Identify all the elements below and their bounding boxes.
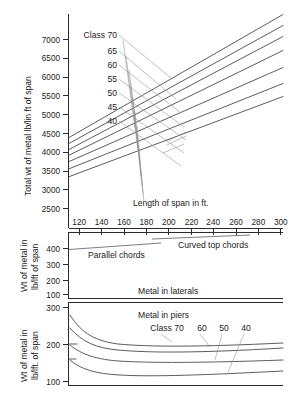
- top-leader-lines: [119, 35, 186, 202]
- mid-y-tick-label: 100: [46, 291, 60, 300]
- bottom-y-tick-label: 300: [46, 304, 60, 313]
- top-y-tick-label: 4500: [42, 130, 61, 139]
- panel-metal-in-piers: 300 200 100 Wt of metal in lb/lft. of sp…: [19, 302, 283, 387]
- top-y-tick-label: 4000: [42, 148, 61, 157]
- bottom-class-labels: Class 70 60 50 40: [150, 323, 251, 333]
- engineering-chart-figure: 7000 6500 6000 5500 5000 4500 4000 3500 …: [0, 0, 295, 401]
- top-x-tick-label: 140: [95, 218, 109, 227]
- bottom-y-axis-title-line1: Wt of metal in: [19, 329, 29, 382]
- mid-y-tick-label: 400: [46, 245, 60, 254]
- top-y-tick-label: 7000: [42, 36, 61, 45]
- top-x-tick-labels: 120 140 160 180 200 220 240 260 280 300: [72, 218, 288, 227]
- bottom-y-ticks: [63, 308, 69, 382]
- annot-curved-top-chords: Curved top chords: [178, 240, 248, 250]
- top-y-tick-label: 3000: [42, 186, 61, 195]
- leader-aux-6: [135, 112, 143, 194]
- pier-class-label-70: Class 70: [150, 323, 184, 333]
- mid-y-tick-labels: 400 300 200 100: [46, 245, 60, 300]
- bottom-y-tick-labels: 300 200 100: [46, 304, 60, 387]
- leader-class-70: [119, 35, 171, 78]
- pier-class-label-40: 40: [241, 323, 251, 333]
- bottom-y-tick-label: 200: [46, 341, 60, 350]
- class-label-50: 50: [107, 88, 117, 98]
- top-y-axis-title: Total wt of metal lb/lin ft of span: [23, 76, 33, 196]
- pier-class-label-60: 60: [197, 323, 207, 333]
- top-x-tick-label: 160: [117, 218, 131, 227]
- top-y-tick-label: 5500: [42, 92, 61, 101]
- annot-parallel-chords: Parallel chords: [88, 250, 145, 260]
- top-x-tick-label: 300: [274, 218, 288, 227]
- top-y-tick-labels: 7000 6500 6000 5500 5000 4500 4000 3500 …: [42, 36, 61, 214]
- line-parallel-chords: [69, 243, 161, 250]
- top-x-axis-title: Length of span in ft.: [133, 198, 209, 208]
- leader-aux-9: [167, 136, 186, 145]
- pier-class-label-50: 50: [219, 323, 229, 333]
- pier-leader-60: [200, 334, 210, 347]
- top-x-tick-label: 180: [140, 218, 154, 227]
- class-label-70: Class 70: [84, 30, 118, 40]
- class-label-65: 65: [107, 46, 117, 56]
- mid-y-axis-title-line1: Wt of metal in: [19, 239, 29, 292]
- annot-metal-in-piers: Metal in piers: [138, 310, 189, 320]
- top-y-tick-label: 5000: [42, 111, 61, 120]
- mid-y-axis-title-line2: lb/lft of span: [30, 243, 40, 290]
- top-x-tick-label: 200: [162, 218, 176, 227]
- line-curved-top-chords: [152, 235, 250, 239]
- class-label-60: 60: [107, 60, 117, 70]
- top-x-ticks: [79, 229, 281, 236]
- leader-aux-1: [123, 40, 135, 128]
- curve-class-55: [69, 51, 283, 156]
- top-y-tick-label: 6000: [42, 73, 61, 82]
- top-y-tick-label: 2500: [42, 205, 61, 214]
- top-x-tick-label: 280: [252, 218, 266, 227]
- leader-class-50: [119, 93, 186, 140]
- top-y-tick-label: 3500: [42, 167, 61, 176]
- bottom-y-tick-label: 100: [46, 378, 60, 387]
- mid-y-tick-label: 300: [46, 261, 60, 270]
- top-x-tick-label: 220: [185, 218, 199, 227]
- leader-aux-7: [137, 126, 144, 202]
- class-label-40: 40: [107, 116, 117, 126]
- top-class-labels: Class 70 65 60 55 50 45 40: [84, 30, 118, 126]
- curve-class-60: [69, 37, 283, 150]
- mid-y-tick-label: 200: [46, 277, 60, 286]
- top-y-tick-label: 6500: [42, 54, 61, 63]
- top-x-tick-label: 120: [72, 218, 86, 227]
- pier-leader-40: [228, 334, 244, 372]
- bottom-leader-lines: [161, 334, 244, 372]
- annot-metal-in-laterals: Metal in laterals: [138, 286, 198, 296]
- pier-leader-50: [215, 334, 222, 360]
- mid-y-ticks: [63, 249, 69, 295]
- top-y-ticks: [63, 40, 69, 209]
- panel-total-weight: 7000 6500 6000 5500 5000 4500 4000 3500 …: [23, 14, 288, 235]
- bottom-left-notches: [70, 344, 78, 359]
- class-label-55: 55: [107, 74, 117, 84]
- panel-chord-weight: 400 300 200 100 Wt of metal in lb/lft of…: [19, 232, 283, 300]
- top-x-tick-label: 240: [206, 218, 220, 227]
- pier-leader-70: [161, 334, 172, 342]
- bottom-y-axis-title-line2: lb/lft. of span: [30, 331, 40, 380]
- class-label-45: 45: [107, 102, 117, 112]
- top-x-tick-label: 260: [229, 218, 243, 227]
